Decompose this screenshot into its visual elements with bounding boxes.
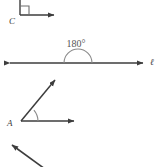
vertex-label-c: C bbox=[9, 16, 16, 26]
line-label-l: ℓ bbox=[150, 57, 154, 67]
straight-angle-figure: 180° ℓ bbox=[10, 38, 154, 67]
vertex-label-a: A bbox=[6, 118, 13, 128]
right-angle-figure: C bbox=[9, 0, 54, 26]
angle-measure-180: 180° bbox=[67, 38, 86, 49]
acute-angle-arc bbox=[34, 110, 38, 121]
partial-ray bbox=[12, 145, 45, 167]
partial-ray-figure bbox=[12, 145, 45, 167]
acute-angle-figure: A bbox=[6, 80, 74, 128]
straight-angle-arc bbox=[64, 49, 92, 63]
geometry-diagram-svg: C 180° ℓ A bbox=[0, 0, 158, 167]
geometry-figure-canvas: C 180° ℓ A bbox=[0, 0, 158, 167]
acute-angle-upper-ray bbox=[21, 80, 55, 121]
right-angle-square-mark bbox=[20, 6, 29, 15]
